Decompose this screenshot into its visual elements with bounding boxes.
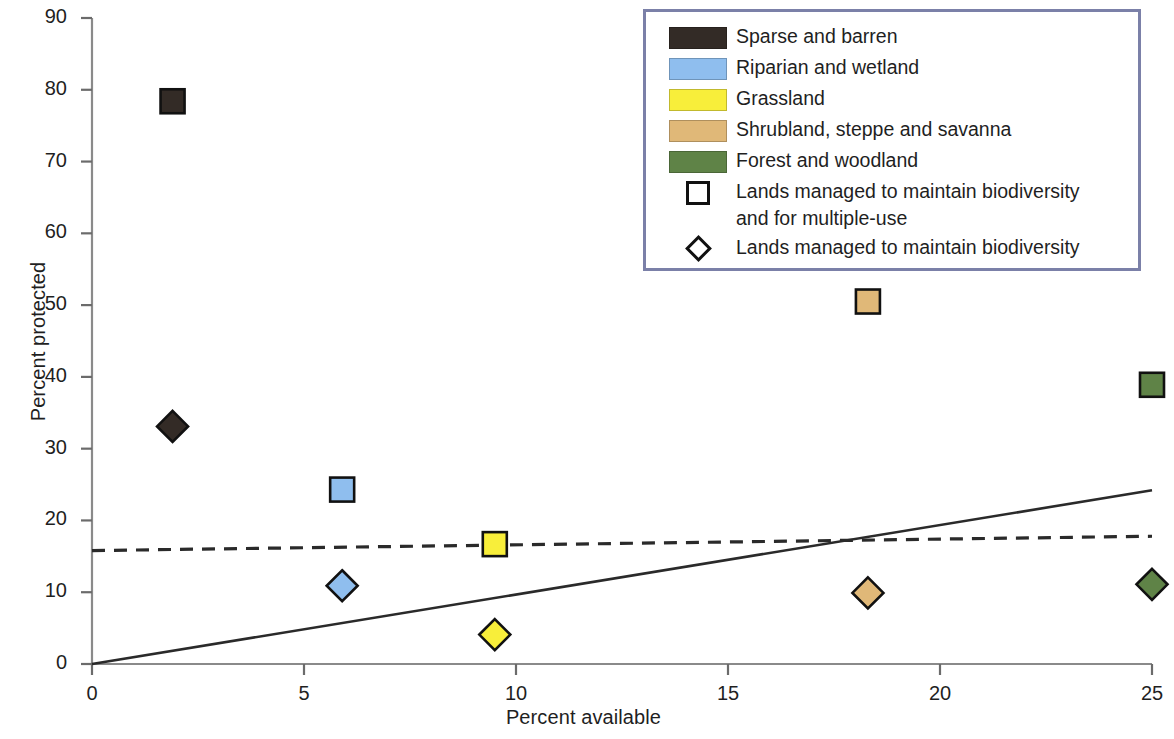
legend: Sparse and barrenRiparian and wetlandGra… bbox=[643, 9, 1141, 271]
legend-color-swatch bbox=[669, 58, 727, 80]
legend-item: Lands managed to maintain biodiversity bbox=[660, 233, 1130, 264]
marker-square bbox=[161, 89, 185, 113]
legend-label: Lands managed to maintain biodiversity a… bbox=[736, 177, 1080, 232]
marker-square bbox=[1140, 373, 1164, 397]
marker-diamond bbox=[852, 577, 883, 608]
legend-label: Sparse and barren bbox=[736, 22, 898, 50]
legend-key-swatch bbox=[660, 53, 736, 84]
legend-key-open-square bbox=[660, 177, 736, 208]
legend-item: Forest and woodland bbox=[660, 146, 1130, 177]
marker-square bbox=[856, 290, 880, 314]
legend-key-swatch bbox=[660, 146, 736, 177]
legend-color-swatch bbox=[669, 151, 727, 173]
legend-item: Riparian and wetland bbox=[660, 53, 1130, 84]
open-diamond-icon bbox=[685, 235, 712, 262]
legend-items: Sparse and barrenRiparian and wetlandGra… bbox=[646, 12, 1138, 268]
legend-key-swatch bbox=[660, 115, 736, 146]
legend-key-open-diamond bbox=[660, 233, 736, 264]
legend-color-swatch bbox=[669, 120, 727, 142]
legend-item: Lands managed to maintain biodiversity a… bbox=[660, 177, 1130, 233]
legend-key-swatch bbox=[660, 84, 736, 115]
legend-label: Forest and woodland bbox=[736, 146, 918, 174]
marker-square bbox=[330, 478, 354, 502]
marker-square bbox=[483, 532, 507, 556]
legend-color-swatch bbox=[669, 89, 727, 111]
legend-item: Shrubland, steppe and savanna bbox=[660, 115, 1130, 146]
marker-diamond bbox=[479, 619, 510, 650]
open-square-icon bbox=[686, 181, 710, 205]
dashed-trendline bbox=[92, 536, 1152, 550]
marker-diamond bbox=[157, 411, 188, 442]
legend-item: Sparse and barren bbox=[660, 22, 1130, 53]
legend-label: Grassland bbox=[736, 84, 825, 112]
legend-label: Lands managed to maintain biodiversity bbox=[736, 233, 1080, 261]
legend-color-swatch bbox=[669, 27, 727, 49]
trendlines bbox=[92, 490, 1152, 664]
legend-item: Grassland bbox=[660, 84, 1130, 115]
legend-label: Riparian and wetland bbox=[736, 53, 919, 81]
solid-trendline bbox=[92, 490, 1152, 664]
legend-key-swatch bbox=[660, 22, 736, 53]
marker-diamond bbox=[327, 570, 358, 601]
marker-diamond bbox=[1137, 569, 1168, 600]
legend-label: Shrubland, steppe and savanna bbox=[736, 115, 1011, 143]
